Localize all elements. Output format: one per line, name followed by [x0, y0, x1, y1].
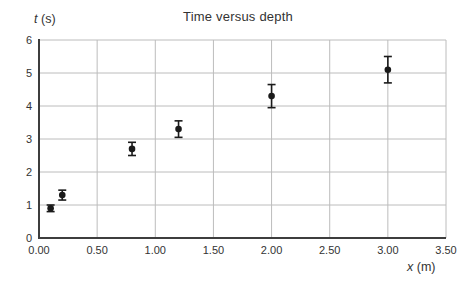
x-tick-label: 3.50: [435, 244, 456, 256]
x-tick-label: 1.50: [203, 244, 224, 256]
y-tick-label: 6: [26, 34, 32, 46]
data-point: [175, 126, 182, 133]
data-point: [129, 146, 136, 153]
x-axis-label: x (m): [407, 260, 435, 274]
x-tick-label: 1.00: [145, 244, 166, 256]
x-tick-label: 2.00: [261, 244, 282, 256]
time-versus-depth-chart: Time versus depth t (s) 0.000.501.001.50…: [0, 0, 476, 288]
x-axis-variable: x: [407, 260, 413, 274]
data-point: [268, 93, 275, 100]
y-tick-label: 1: [26, 199, 32, 211]
x-tick-label: 0.50: [86, 244, 107, 256]
x-tick-label: 0.00: [28, 244, 49, 256]
x-tick-label: 2.50: [319, 244, 340, 256]
data-point: [385, 66, 392, 73]
x-tick-label: 3.00: [377, 244, 398, 256]
y-tick-label: 5: [26, 67, 32, 79]
data-point: [59, 192, 66, 199]
x-axis-unit: (m): [417, 260, 436, 274]
y-tick-label: 4: [26, 100, 32, 112]
plot-area: 0.000.501.001.502.002.503.003.500123456: [0, 0, 476, 288]
y-tick-label: 0: [26, 232, 32, 244]
y-tick-label: 2: [26, 166, 32, 178]
y-tick-label: 3: [26, 133, 32, 145]
data-point: [47, 205, 54, 212]
